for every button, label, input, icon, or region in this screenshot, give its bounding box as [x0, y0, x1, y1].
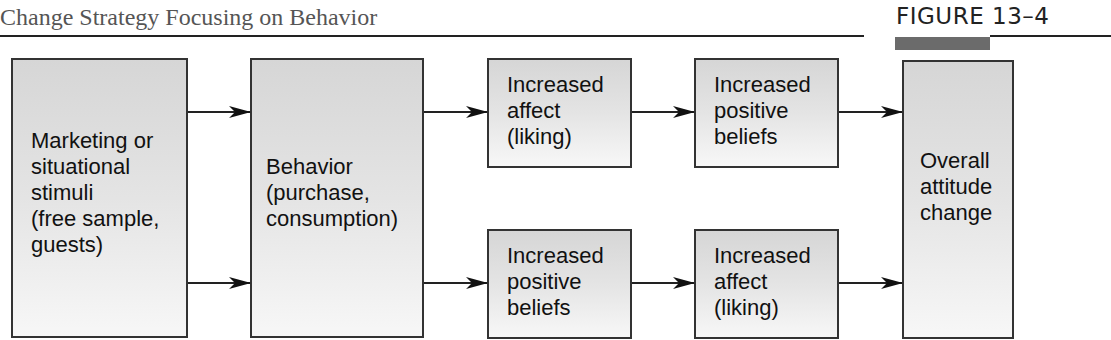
flow-arrows: [0, 0, 1111, 340]
